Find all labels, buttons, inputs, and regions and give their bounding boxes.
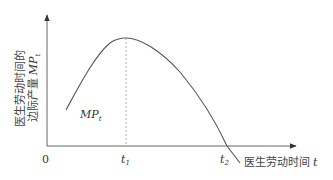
x-axis-label: 医生劳动时间t (244, 155, 318, 169)
y-axis-label: 医生劳动时间的 边际产量MPt (13, 50, 42, 127)
tick-t2-label: t2 (220, 153, 229, 167)
diagram-canvas: 0 t1 t2 MPt 医生劳动时间t 医生劳动时间的 边际产量MPt (0, 0, 333, 180)
origin-label: 0 (42, 153, 49, 166)
curve-label: MPt (79, 108, 102, 123)
tick-t1-label: t1 (121, 153, 130, 167)
y-axis-label-line1: 医生劳动时间的 (13, 50, 27, 127)
mp-curve (66, 38, 240, 163)
y-axis-label-line2: 边际产量MPt (26, 54, 42, 123)
